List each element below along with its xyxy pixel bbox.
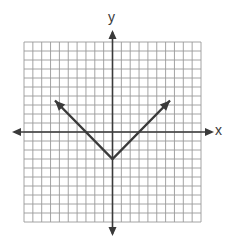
arrow-right-icon (205, 128, 214, 136)
coordinate-plane (0, 0, 235, 245)
arrow-down-icon (109, 227, 117, 236)
x-axis-label: x (215, 123, 222, 137)
arrow-left-icon (12, 128, 21, 136)
y-axis-label: y (108, 10, 115, 24)
arrow-up-icon (109, 30, 117, 39)
